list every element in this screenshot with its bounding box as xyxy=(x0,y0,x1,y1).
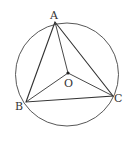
label-o: O xyxy=(64,77,73,90)
label-c: C xyxy=(114,92,122,105)
circumcircle xyxy=(16,23,119,126)
center-point-o xyxy=(66,71,69,74)
segment-ob xyxy=(26,73,68,102)
segment-oc xyxy=(68,73,113,96)
label-b: B xyxy=(15,100,23,113)
circle-triangle-diagram: A B C O xyxy=(0,0,129,141)
label-a: A xyxy=(49,9,59,22)
triangle-abc xyxy=(26,22,113,102)
